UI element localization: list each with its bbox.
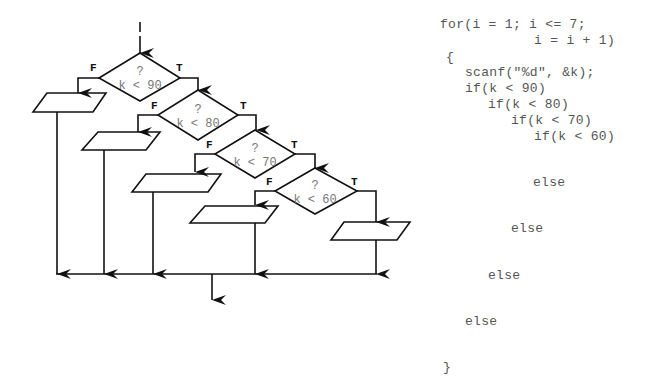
io-box-2 xyxy=(82,132,160,150)
code-line-increment: i = i + 1) xyxy=(534,34,615,48)
false-label-2: F xyxy=(151,100,158,112)
false-branch-2 xyxy=(138,115,158,132)
false-branch-4 xyxy=(255,191,275,205)
condition-3: k < 70 xyxy=(233,156,276,170)
true-label-1: T xyxy=(176,62,183,74)
true-label-3: T xyxy=(291,139,298,151)
false-branch-3 xyxy=(195,154,215,172)
false-branch-1 xyxy=(78,78,99,93)
question-1: ? xyxy=(136,65,143,79)
condition-2: k < 80 xyxy=(176,117,219,131)
code-line-else-2: else xyxy=(511,222,543,236)
code-line-open-brace: { xyxy=(446,51,454,65)
code-line-if-80: if(k < 80) xyxy=(488,98,569,112)
false-label-1: F xyxy=(90,62,97,74)
code-line-scanf: scanf("%d", &k); xyxy=(465,66,595,80)
question-3: ? xyxy=(251,142,258,156)
io-box-4 xyxy=(190,206,278,223)
code-line-else-4: else xyxy=(465,315,497,329)
io-box-1 xyxy=(33,93,106,112)
io-box-5 xyxy=(331,222,410,240)
code-line-if-90: if(k < 90) xyxy=(465,82,546,96)
code-line-if-70: if(k < 70) xyxy=(511,114,592,128)
false-label-3: F xyxy=(206,139,213,151)
condition-1: k < 90 xyxy=(118,79,161,93)
true-branch-4 xyxy=(357,191,376,222)
question-4: ? xyxy=(311,179,318,193)
true-branch-1 xyxy=(180,78,198,90)
io-box-3 xyxy=(132,174,221,192)
code-line-for: for(i = 1; i <= 7; xyxy=(440,18,586,32)
true-branch-3 xyxy=(295,154,315,168)
true-label-4: T xyxy=(351,176,358,188)
code-line-else-1: else xyxy=(533,176,565,190)
code-line-else-3: else xyxy=(488,269,520,283)
question-2: ? xyxy=(194,103,201,117)
true-branch-2 xyxy=(238,115,256,130)
flowchart: F T ? k < 90 F T ? k < 80 F T ? k < 70 F… xyxy=(0,0,430,390)
condition-4: k < 60 xyxy=(293,193,336,207)
code-line-close-brace: } xyxy=(443,361,451,375)
true-label-2: T xyxy=(240,100,247,112)
code-line-if-60: if(k < 60) xyxy=(534,130,615,144)
false-label-4: F xyxy=(266,176,273,188)
